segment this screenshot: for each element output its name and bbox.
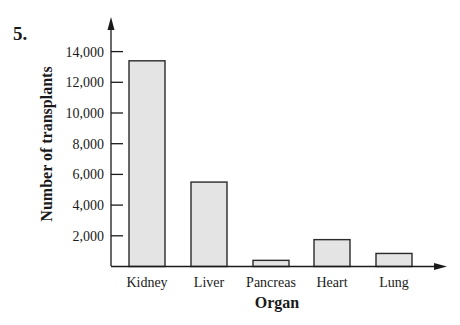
bar-pancreas <box>253 260 289 266</box>
y-axis-title: Number of transplants <box>38 66 56 221</box>
bar-lung <box>376 253 412 266</box>
bars-group <box>129 61 412 267</box>
x-axis-arrow-icon <box>434 263 447 270</box>
x-tick-label-heart: Heart <box>316 275 347 290</box>
y-axis-arrow-icon <box>108 17 115 30</box>
x-tick-label-liver: Liver <box>194 275 225 290</box>
bar-chart: 2,0004,0006,0008,00010,00012,00014,000 K… <box>0 0 460 325</box>
bar-kidney <box>129 61 165 267</box>
x-tick-label-pancreas: Pancreas <box>246 275 296 290</box>
y-tick-label: 6,000 <box>73 167 105 182</box>
y-axis-ticks: 2,0004,0006,0008,00010,00012,00014,000 <box>66 45 124 244</box>
y-tick-label: 10,000 <box>66 106 105 121</box>
bar-heart <box>314 240 350 267</box>
y-tick-label: 8,000 <box>73 137 105 152</box>
bar-liver <box>191 182 227 266</box>
y-tick-label: 14,000 <box>66 45 105 60</box>
x-tick-label-kidney: Kidney <box>126 275 167 290</box>
x-tick-label-lung: Lung <box>379 275 409 290</box>
y-tick-label: 4,000 <box>73 198 105 213</box>
y-tick-label: 12,000 <box>66 75 105 90</box>
y-tick-label: 2,000 <box>73 229 105 244</box>
x-axis-title: Organ <box>255 294 300 312</box>
x-axis-category-labels: KidneyLiverPancreasHeartLung <box>126 275 408 290</box>
